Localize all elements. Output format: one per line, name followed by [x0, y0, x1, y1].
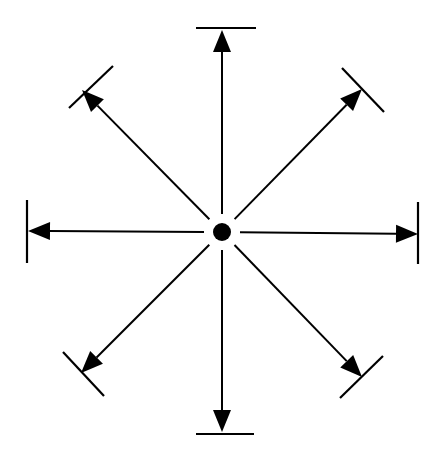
- arrow-shaft-west: [50, 231, 204, 232]
- radial-arrow-diagram: [0, 0, 445, 449]
- arrowhead-icon-south: [213, 410, 231, 432]
- arrow-shaft-northwest: [97, 106, 209, 220]
- arrow-shaft-southeast: [235, 245, 347, 361]
- arrowhead-icon-east: [396, 225, 418, 243]
- boundary-bar-southwest: [63, 352, 104, 396]
- arrow-shaft-east: [240, 232, 396, 234]
- diagram-canvas: [0, 0, 445, 449]
- arrow-shaft-northeast: [235, 105, 347, 219]
- arrowhead-icon-north: [213, 30, 231, 52]
- arrow-shaft-southwest: [97, 245, 210, 358]
- arrowhead-icon-west: [28, 222, 50, 240]
- center-dot: [213, 223, 231, 241]
